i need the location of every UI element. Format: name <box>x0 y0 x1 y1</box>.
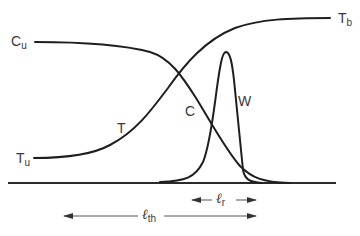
label-t-burned: Tb <box>338 11 352 28</box>
label-tb-main: T <box>338 10 347 26</box>
label-tu-sub: u <box>25 157 31 168</box>
label-concentration: C <box>185 104 195 118</box>
label-tb-sub: b <box>347 17 353 28</box>
label-c-sub: u <box>21 40 27 51</box>
label-lth-sub: th <box>148 213 156 224</box>
label-reaction-rate: W <box>238 94 251 108</box>
reaction-rate-curve <box>160 52 262 183</box>
label-c-main: C <box>11 33 21 49</box>
label-thermal-thickness: ℓth <box>142 207 156 224</box>
label-c-unburned: Cu <box>11 34 27 51</box>
label-t-unburned: Tu <box>16 151 30 168</box>
label-temperature: T <box>117 121 126 135</box>
label-tu-main: T <box>16 150 25 166</box>
concentration-curve <box>35 42 290 183</box>
temperature-curve <box>34 18 330 158</box>
flame-structure-diagram <box>0 0 360 236</box>
label-lr-sub: r <box>222 197 225 208</box>
label-reaction-zone: ℓr <box>216 191 225 208</box>
